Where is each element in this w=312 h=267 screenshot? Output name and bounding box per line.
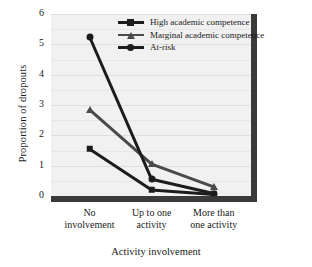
data-point-marker	[86, 105, 94, 112]
chart-legend: High academic competenceMarginal academi…	[118, 16, 264, 54]
y-tick-label: 2	[22, 128, 44, 139]
y-tick-label: 1	[22, 159, 44, 170]
legend-marker-shape	[127, 19, 134, 26]
series-line	[90, 37, 214, 194]
y-tick-label: 6	[22, 7, 44, 18]
data-point-marker	[210, 183, 218, 190]
legend-item: At-risk	[118, 41, 264, 54]
legend-label: Marginal academic competence	[150, 29, 264, 42]
legend-item: Marginal academic competence	[118, 29, 264, 42]
data-point-marker	[148, 187, 155, 194]
legend-label: High academic competence	[150, 16, 249, 29]
data-point-marker	[86, 146, 93, 153]
data-point-marker	[148, 176, 155, 183]
data-point-marker	[148, 160, 156, 167]
x-axis-line	[51, 196, 257, 202]
legend-label: At-risk	[150, 41, 176, 54]
x-tick-label-line: one activity	[170, 219, 258, 231]
y-tick-label: 4	[22, 68, 44, 79]
legend-marker-triangle-icon	[118, 29, 144, 41]
y-tick-label: 0	[22, 189, 44, 200]
x-tick-label: More thanone activity	[170, 207, 258, 230]
legend-marker-square-icon	[118, 16, 144, 28]
y-tick-label: 5	[22, 37, 44, 48]
x-axis-title: Activity involvement	[0, 246, 312, 257]
legend-marker-circle-icon	[118, 41, 144, 53]
legend-marker-shape	[127, 44, 134, 51]
data-point-marker	[86, 33, 93, 40]
chart-figure: Proportion of dropouts 0123456 Noinvolve…	[0, 0, 312, 267]
x-tick-label-line: More than	[170, 207, 258, 219]
legend-marker-shape	[127, 32, 135, 39]
legend-item: High academic competence	[118, 16, 264, 29]
y-tick-label: 3	[22, 98, 44, 109]
